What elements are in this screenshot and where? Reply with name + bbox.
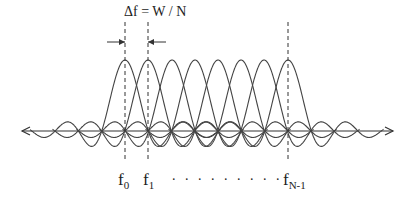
label-f0-sub: 0 [124, 179, 130, 191]
label-fN-1-base: f [283, 170, 289, 189]
arrowhead-icon [148, 39, 154, 45]
label-f1-base: f [143, 170, 149, 189]
label-f1: f1 [143, 170, 154, 190]
label-f0: f0 [118, 170, 129, 190]
delta-f-equation: Δf = W / N [124, 4, 186, 20]
label-fN-1-sub: N-1 [289, 179, 306, 191]
label-f1-sub: 1 [149, 179, 155, 191]
label-fN-1: fN-1 [283, 170, 306, 190]
arrowhead-icon [119, 39, 125, 45]
ellipsis-dots: . . . . . . . . . [172, 168, 283, 184]
label-f0-base: f [118, 170, 124, 189]
